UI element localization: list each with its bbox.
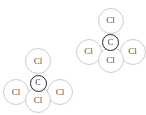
molecule-diagram: ClClClClC ClClClClC [0, 0, 146, 115]
c-atom-central-carbon: C [102, 34, 119, 51]
cl-atom-top-chlorine: Cl [98, 8, 124, 34]
molecule-top-right: ClClClClC [0, 0, 146, 115]
